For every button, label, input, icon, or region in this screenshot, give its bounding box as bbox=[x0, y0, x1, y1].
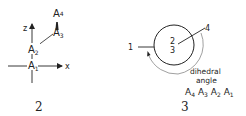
center-atom-3: 3 bbox=[170, 46, 175, 55]
arc-arrowhead bbox=[147, 51, 150, 57]
figure-2: z x A1 A2 A3 A4 2 bbox=[8, 8, 70, 114]
figure-2-caption: 2 bbox=[35, 100, 43, 114]
diagram-canvas: z x A1 A2 A3 A4 2 1 2 3 bbox=[0, 0, 246, 116]
atom-4-label: 4 bbox=[205, 24, 210, 33]
atom-a4: A4 bbox=[53, 8, 64, 19]
atom-a3: A3 bbox=[53, 27, 64, 39]
figure-3: 1 2 3 4 dihedral angle A4 A3 A2 A1 3 bbox=[128, 24, 234, 114]
center-atom-2: 2 bbox=[170, 37, 175, 46]
angle-label: angle bbox=[196, 76, 217, 85]
z-axis-label: z bbox=[23, 24, 27, 33]
x-axis-label: x bbox=[65, 62, 70, 71]
atom-1-label: 1 bbox=[128, 43, 133, 52]
bond-front-atom-4 bbox=[178, 28, 205, 44]
dihedral-label: dihedral bbox=[190, 67, 221, 76]
dihedral-atoms-label: A4 A3 A2 A1 bbox=[185, 87, 234, 99]
figure-3-caption: 3 bbox=[181, 100, 189, 114]
